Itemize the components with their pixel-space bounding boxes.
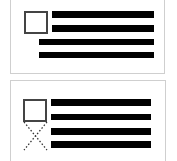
- text-line: [39, 39, 154, 45]
- text-line: [51, 99, 151, 106]
- image-placeholder-icon: [24, 11, 48, 34]
- text-line: [51, 141, 151, 148]
- text-line: [52, 25, 154, 32]
- empty-space-x-icon: [23, 121, 48, 151]
- text-line: [51, 128, 151, 135]
- text-line: [39, 52, 154, 58]
- text-line: [52, 11, 154, 18]
- image-placeholder-icon: [23, 99, 47, 122]
- text-line: [51, 114, 151, 120]
